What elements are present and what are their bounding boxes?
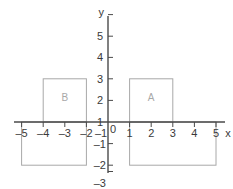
region-label-A: A [148,92,155,103]
x-tick-label-3: 3 [170,127,176,139]
graph-canvas: –5 –4 –3 –2 –1 1 2 3 4 5 5 4 3 2 1 –1 –2… [0,0,233,189]
x-axis-label: x [225,127,231,139]
x-tick-label--4: –4 [37,127,49,139]
x-tick-label--5: –5 [15,127,27,139]
y-tick-label-4: 4 [97,51,103,63]
y-tick-label--2: –2 [94,159,106,171]
x-tick-label--3: –3 [59,127,71,139]
origin-label: 0 [110,123,116,135]
y-tick-label-3: 3 [97,73,103,85]
y-tick-label--3: –3 [94,177,106,189]
y-tick-label--1: –1 [94,138,106,150]
y-tick-marks [108,15,113,172]
y-tick-label-2: 2 [97,94,103,106]
x-tick-label-1: 1 [127,127,133,139]
y-tick-label-5: 5 [97,30,103,42]
x-tick-label-5: 5 [213,127,219,139]
shape-rect-B-lower [22,122,87,165]
y-axis-label: y [99,6,105,18]
y-tick-label-1: 1 [97,116,103,128]
x-tick-label-2: 2 [148,127,154,139]
x-tick-label-4: 4 [191,127,197,139]
x-tick-marks [22,122,216,127]
x-tick-label--2: –2 [80,127,92,139]
coordinate-plane-figure: –5 –4 –3 –2 –1 1 2 3 4 5 5 4 3 2 1 –1 –2… [0,0,233,189]
axes-group [14,16,225,173]
region-label-B: B [61,92,68,103]
